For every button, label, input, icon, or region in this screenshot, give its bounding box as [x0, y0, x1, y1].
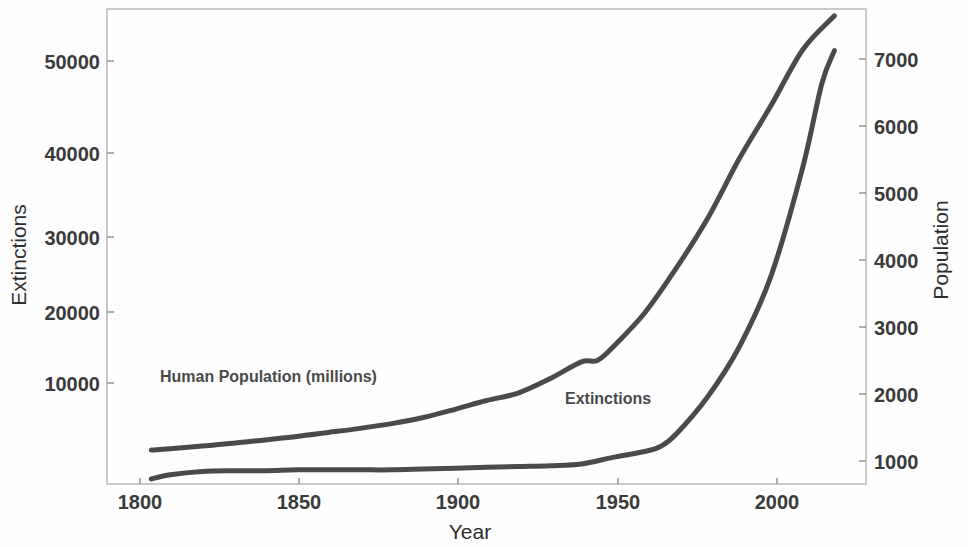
bottom-axis-title: Year — [449, 520, 491, 543]
right-axis-title: Population — [929, 200, 952, 299]
chart-figure: 50000 40000 30000 20000 10000 Extinction… — [0, 0, 968, 547]
chart-canvas: 50000 40000 30000 20000 10000 Extinction… — [0, 0, 968, 547]
x-tick-label-1850: 1850 — [277, 491, 322, 513]
left-tick-label-20000: 20000 — [44, 302, 100, 324]
right-tick-label-6000: 6000 — [874, 116, 919, 138]
extinctions-series-label: Extinctions — [565, 390, 651, 407]
right-tick-label-7000: 7000 — [874, 49, 919, 71]
right-tick-label-1000: 1000 — [874, 451, 919, 473]
left-tick-label-40000: 40000 — [44, 143, 100, 165]
x-tick-label-1900: 1900 — [436, 491, 481, 513]
x-tick-label-1800: 1800 — [118, 491, 163, 513]
left-axis-ticks — [107, 61, 114, 383]
left-axis-title: Extinctions — [7, 204, 30, 306]
right-tick-label-5000: 5000 — [874, 183, 919, 205]
left-tick-label-10000: 10000 — [44, 373, 100, 395]
left-tick-label-30000: 30000 — [44, 227, 100, 249]
plot-frame — [107, 9, 866, 484]
population-series-label: Human Population (millions) — [160, 368, 377, 385]
right-axis-ticks — [859, 59, 866, 461]
right-tick-label-4000: 4000 — [874, 250, 919, 272]
right-tick-label-2000: 2000 — [874, 384, 919, 406]
extinctions-line — [151, 51, 834, 479]
x-tick-label-2000: 2000 — [755, 491, 800, 513]
left-tick-label-50000: 50000 — [44, 51, 100, 73]
right-tick-label-3000: 3000 — [874, 317, 919, 339]
x-tick-label-1950: 1950 — [596, 491, 641, 513]
